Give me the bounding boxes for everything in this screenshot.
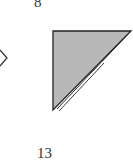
gray-right-triangle	[53, 31, 131, 111]
label-bottom-number: 13	[37, 146, 52, 161]
chevron-right-icon	[0, 50, 7, 66]
diagram-figure	[0, 0, 133, 166]
